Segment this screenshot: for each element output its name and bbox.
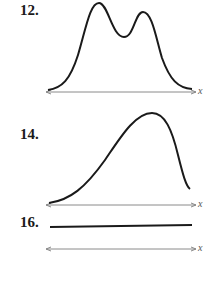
graph-16 (46, 225, 196, 249)
curve (48, 3, 192, 90)
x-axis-label: x (198, 242, 202, 253)
x-axis-label: x (198, 198, 202, 209)
x-axis-label: x (198, 85, 202, 96)
graph-12 (46, 3, 196, 92)
graphs-canvas (0, 0, 218, 299)
curve (49, 113, 190, 203)
graph-14 (46, 113, 196, 205)
constant-line (50, 225, 192, 227)
